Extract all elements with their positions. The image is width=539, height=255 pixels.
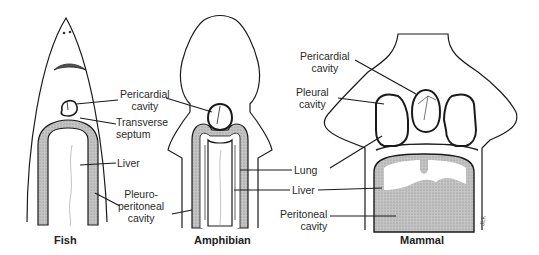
label-line: Pericardial: [300, 50, 350, 62]
mammal-left-lung: [376, 94, 408, 146]
label-mammal-pericardial-cavity: Pericardial cavity: [300, 50, 350, 74]
caption-amphibian: Amphibian: [194, 234, 251, 246]
fish-coelom: [38, 120, 98, 225]
label-line: cavity: [296, 98, 329, 110]
signature: JLK: [479, 215, 487, 226]
fish-mouth: [54, 64, 86, 70]
mammal-heart: [412, 90, 440, 132]
label-pleural-cavity: Pleural cavity: [296, 86, 329, 110]
label-line: Transverse: [116, 116, 168, 128]
label-lung: Lung: [294, 164, 317, 176]
amphibian-drawing: [166, 16, 292, 229]
label-peritoneal-cavity: Peritoneal cavity: [280, 208, 327, 232]
caption-mammal: Mammal: [400, 234, 444, 246]
label-line: Liver: [292, 184, 315, 196]
label-line: cavity: [280, 220, 327, 232]
label-line: Pleuro-: [118, 188, 164, 200]
label-line: Pericardial: [120, 88, 170, 100]
caption-fish: Fish: [54, 234, 77, 246]
fish-drawing: [27, 18, 120, 226]
label-line: peritoneal: [118, 200, 164, 212]
label-line: Lung: [294, 164, 317, 176]
label-line: Peritoneal: [280, 208, 327, 220]
label-line: cavity: [118, 212, 164, 224]
label-liver: Liver: [292, 184, 315, 196]
label-line: septum: [116, 128, 168, 140]
label-line: Liver: [117, 157, 140, 169]
label-line: cavity: [120, 100, 170, 112]
label-line: cavity: [300, 62, 350, 74]
label-fish-liver: Liver: [117, 157, 140, 169]
fish-heart: [61, 101, 77, 116]
label-fish-pericardial-cavity: Pericardial cavity: [120, 88, 170, 112]
label-pleuroperitoneal-cavity: Pleuro- peritoneal cavity: [118, 188, 164, 224]
body-cavity-diagram: JLK: [0, 0, 539, 255]
label-transverse-septum: Transverse septum: [116, 116, 168, 140]
mammal-right-lung: [444, 94, 476, 146]
label-line: Pleural: [296, 86, 329, 98]
